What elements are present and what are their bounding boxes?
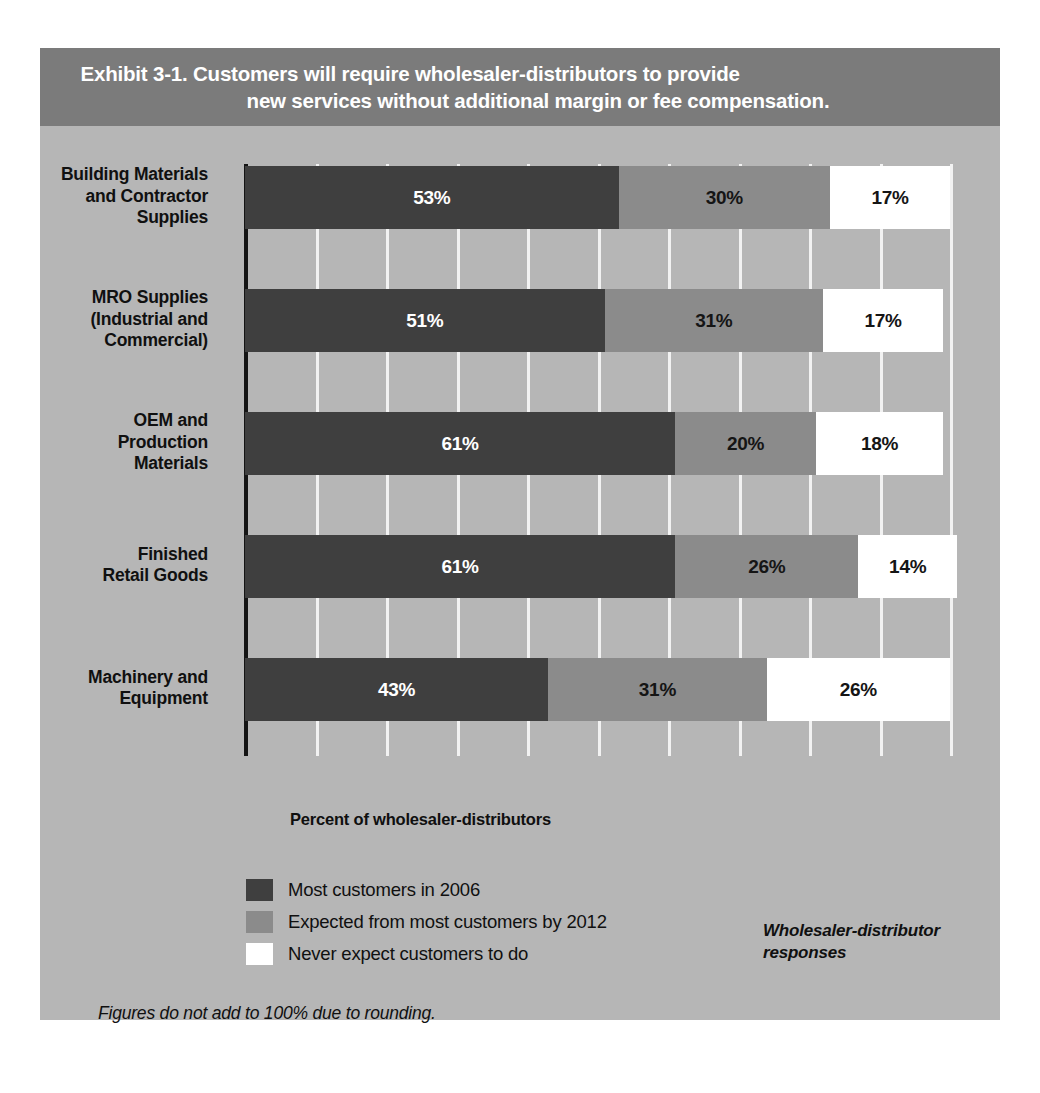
legend-swatch-series-2 [246, 911, 273, 933]
response-note-line1: Wholesaler-distributor [763, 921, 940, 940]
legend-item: Most customers in 2006 [246, 876, 607, 904]
bar-segment-series-2: 31% [605, 289, 824, 352]
chart-bar-row: Machinery andEquipment43%31%26% [245, 658, 950, 721]
category-label-line: and Contractor [85, 186, 208, 206]
category-label-line: Building Materials [61, 164, 208, 184]
bar-value-label: 30% [706, 187, 743, 209]
page-title: Exhibit 3-1. Customers will require whol… [73, 60, 968, 114]
bar-segment-series-2: 20% [675, 412, 816, 475]
chart-footnote: Figures do not add to 100% due to roundi… [98, 1003, 436, 1024]
legend-label-series-3: Never expect customers to do [288, 943, 528, 965]
bar-value-label: 20% [727, 433, 764, 455]
exhibit-title-line2: new services without additional margin o… [73, 87, 968, 114]
category-label: Machinery andEquipment [0, 667, 208, 710]
category-label-line: (Industrial and [90, 309, 208, 329]
bar-segment-series-2: 26% [675, 535, 858, 598]
legend-swatch-series-3 [246, 943, 273, 965]
chart-bar-row: OEM andProductionMaterials61%20%18% [245, 412, 950, 475]
category-label-line: MRO Supplies [92, 287, 208, 307]
legend-label-series-1: Most customers in 2006 [288, 879, 480, 901]
category-label: FinishedRetail Goods [0, 544, 208, 587]
bar-segment-series-3: 18% [816, 412, 943, 475]
legend-swatch-series-1 [246, 879, 273, 901]
category-label: OEM andProductionMaterials [0, 410, 208, 474]
category-label: MRO Supplies(Industrial andCommercial) [0, 287, 208, 351]
chart-bar-row: MRO Supplies(Industrial andCommercial)51… [245, 289, 950, 352]
bar-segment-series-1: 61% [245, 535, 675, 598]
bar-value-label: 26% [840, 679, 877, 701]
category-label-line: Finished [138, 544, 208, 564]
category-label: Building Materialsand ContractorSupplies [0, 164, 208, 228]
bar-segment-series-1: 53% [245, 166, 619, 229]
exhibit-panel: Exhibit 3-1. Customers will require whol… [40, 48, 1000, 1020]
category-label-line: Equipment [119, 688, 208, 708]
exhibit-title-band: Exhibit 3-1. Customers will require whol… [40, 48, 1000, 126]
category-label-line: Commercial) [104, 330, 208, 350]
legend-item: Expected from most customers by 2012 [246, 908, 607, 936]
bar-value-label: 17% [864, 310, 901, 332]
bar-value-label: 61% [441, 433, 478, 455]
chart-bar-row: FinishedRetail Goods61%26%14% [245, 535, 950, 598]
bar-value-label: 26% [748, 556, 785, 578]
response-note: Wholesaler-distributor responses [763, 920, 978, 964]
exhibit-title-line1: Exhibit 3-1. Customers will require whol… [73, 60, 968, 87]
category-label-line: Materials [134, 453, 208, 473]
bar-segment-series-3: 14% [858, 535, 957, 598]
chart-bar-rows: Building Materialsand ContractorSupplies… [245, 166, 1000, 786]
bar-value-label: 53% [413, 187, 450, 209]
response-note-line2: responses [763, 943, 846, 962]
bar-value-label: 61% [441, 556, 478, 578]
bar-segment-series-2: 30% [619, 166, 831, 229]
category-label-line: OEM and [134, 410, 208, 430]
chart-legend: Most customers in 2006 Expected from mos… [246, 876, 607, 972]
bar-segment-series-3: 17% [830, 166, 950, 229]
legend-item: Never expect customers to do [246, 940, 607, 968]
bar-segment-series-1: 61% [245, 412, 675, 475]
bar-segment-series-3: 17% [823, 289, 943, 352]
bar-value-label: 43% [378, 679, 415, 701]
category-label-line: Production [118, 432, 208, 452]
category-label-line: Machinery and [88, 667, 208, 687]
bar-value-label: 14% [889, 556, 926, 578]
category-label-line: Supplies [137, 207, 208, 227]
bar-value-label: 17% [871, 187, 908, 209]
bar-value-label: 31% [695, 310, 732, 332]
bar-segment-series-2: 31% [548, 658, 767, 721]
chart-bar-row: Building Materialsand ContractorSupplies… [245, 166, 950, 229]
x-axis-title: Percent of wholesaler-distributors [290, 810, 551, 829]
legend-label-series-2: Expected from most customers by 2012 [288, 911, 607, 933]
bar-value-label: 51% [406, 310, 443, 332]
category-label-line: Retail Goods [102, 565, 208, 585]
bar-value-label: 18% [861, 433, 898, 455]
bar-segment-series-3: 26% [767, 658, 950, 721]
bar-segment-series-1: 51% [245, 289, 605, 352]
bar-segment-series-1: 43% [245, 658, 548, 721]
bar-value-label: 31% [639, 679, 676, 701]
chart-plot-area: Building Materialsand ContractorSupplies… [40, 146, 1000, 801]
